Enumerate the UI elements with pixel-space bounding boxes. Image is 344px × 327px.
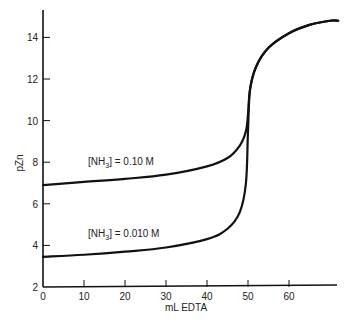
x-tick-label: 10	[78, 291, 90, 302]
y-tick-label: 12	[27, 74, 39, 85]
x-tick-label: 0	[40, 291, 46, 302]
curve-nh3-0.010M	[43, 20, 338, 256]
x-tick-label: 40	[201, 291, 213, 302]
x-axis-line	[43, 285, 337, 287]
y-tick-label: 2	[32, 282, 38, 293]
y-tick-label: 10	[27, 116, 39, 127]
x-tick-label: 60	[283, 291, 295, 302]
annotation-upper-curve: [NH3] = 0.10 M	[88, 156, 154, 169]
y-axis-title: pZn	[14, 154, 25, 171]
annotation-lower-curve: [NH3] = 0.010 M	[88, 228, 159, 241]
curves	[43, 20, 338, 256]
x-tick-label: 20	[119, 291, 131, 302]
x-tick-label: 30	[160, 291, 172, 302]
y-tick-label: 8	[32, 157, 38, 168]
y-tick-label: 14	[27, 32, 39, 43]
x-tick-label: 50	[242, 291, 254, 302]
y-tick-label: 4	[32, 240, 38, 251]
x-axis-title: mL EDTA	[165, 302, 208, 313]
y-tick-label: 6	[32, 199, 38, 210]
axes	[43, 10, 337, 287]
titration-chart: 01020304050602468101214 mL EDTA pZn [NH3…	[0, 0, 344, 327]
